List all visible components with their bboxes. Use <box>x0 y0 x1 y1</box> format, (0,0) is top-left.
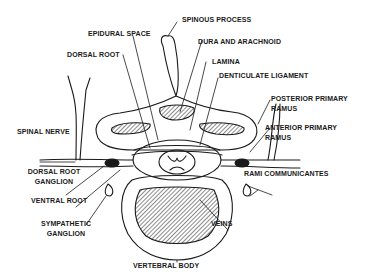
posterior-ramus-left <box>68 76 90 160</box>
spinous-process-shape <box>161 36 178 96</box>
label-vertebral-body: VERTEBRAL BODY <box>133 262 199 270</box>
lamina-hatch-right <box>200 123 245 135</box>
vertebral-body-hatch <box>135 187 219 244</box>
label-anterior-primary-ramus-2: RAMUS <box>265 134 291 142</box>
grey-matter-shape <box>168 156 186 170</box>
label-denticulate-ligament: DENTICULATE LIGAMENT <box>219 72 308 80</box>
spinal-nerve-right <box>221 160 300 168</box>
label-rami-communicantes: RAMI COMMUNICANTES <box>244 170 329 178</box>
label-anterior-primary-ramus-1: ANTERIOR PRIMARY <box>265 124 337 132</box>
label-spinous-process: SPINOUS PROCESS <box>182 16 251 24</box>
label-sympathetic-ganglion-2: GANGLION <box>38 230 94 238</box>
label-lamina: LAMINA <box>212 58 240 66</box>
label-sympathetic-ganglion-1: SYMPATHETIC <box>38 220 94 228</box>
label-veins: VEINS <box>211 220 233 228</box>
sympathetic-ganglion-right <box>243 184 251 196</box>
label-ventral-root: VENTRAL ROOT <box>31 197 87 205</box>
label-posterior-primary-ramus-2: RAMUS <box>271 105 297 113</box>
label-dorsal-root-ganglion-2: GANGLION <box>26 178 82 186</box>
lamina-hatch-top <box>160 105 195 120</box>
sympathetic-ganglion-left <box>105 184 113 196</box>
dorsal-root-ganglion-left <box>105 159 119 167</box>
label-dorsal-root-ganglion-1: DORSAL ROOT <box>26 168 82 176</box>
label-spinal-nerve: SPINAL NERVE <box>17 128 70 136</box>
dorsal-root-ganglion-right <box>235 159 249 167</box>
label-posterior-primary-ramus-1: POSTERIOR PRIMARY <box>271 95 348 103</box>
posterior-arch-shape <box>96 96 257 150</box>
label-epidural-space: EPIDURAL SPACE <box>88 30 151 38</box>
label-dura-and-arachnoid: DURA AND ARACHNOID <box>198 38 281 46</box>
label-dorsal-root: DORSAL ROOT <box>67 51 120 59</box>
spinal-cord-shape <box>159 150 195 174</box>
